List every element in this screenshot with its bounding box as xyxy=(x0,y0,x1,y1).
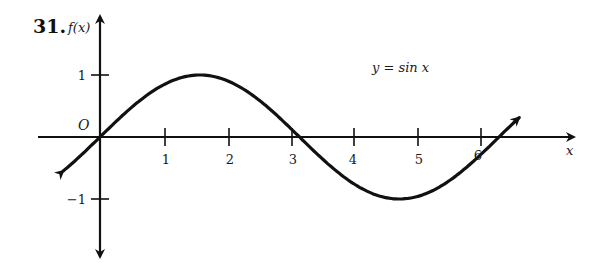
svg-text:−1: −1 xyxy=(67,192,86,207)
sine-graph: 31. f(x) x O y = sin x 1 2 3 4 5 6 1 −1 xyxy=(0,0,610,272)
equation-label: y = sin x xyxy=(371,60,430,75)
svg-text:1: 1 xyxy=(162,152,170,167)
svg-text:2: 2 xyxy=(226,152,234,167)
svg-text:4: 4 xyxy=(349,152,357,167)
x-axis-label: x xyxy=(566,143,574,158)
problem-number: 31. xyxy=(33,15,66,37)
svg-text:1: 1 xyxy=(78,68,86,83)
svg-text:5: 5 xyxy=(415,152,423,167)
origin-label: O xyxy=(78,117,90,133)
y-axis-label: f(x) xyxy=(67,20,90,35)
svg-text:3: 3 xyxy=(289,152,297,167)
svg-text:6: 6 xyxy=(474,148,482,163)
